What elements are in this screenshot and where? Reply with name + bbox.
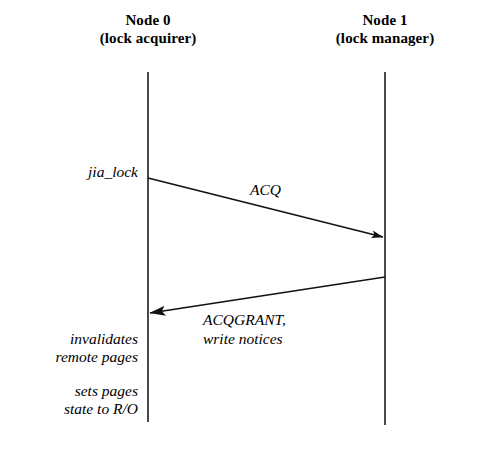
participant-title-node0: Node 0: [125, 12, 170, 28]
annotation-sets-pages-line1: sets pages: [64, 382, 138, 400]
message-label-acqgrant: ACQGRANT, write notices: [203, 310, 286, 349]
message-label-acq-text: ACQ: [250, 181, 281, 198]
message-label-acqgrant-line1: ACQGRANT,: [203, 310, 286, 329]
annotation-invalidates-line2: remote pages: [55, 348, 138, 366]
annotation-invalidates-line1: invalidates: [55, 330, 138, 348]
annotation-jia-lock-text: jia_lock: [88, 163, 138, 180]
annotation-jia-lock: jia_lock: [88, 163, 138, 181]
participant-header-node1: Node 1 (lock manager): [336, 12, 434, 47]
sequence-diagram: Node 0 (lock acquirer) Node 1 (lock mana…: [0, 0, 487, 450]
participant-title-node1: Node 1: [362, 12, 407, 28]
participant-role-node1: (lock manager): [336, 30, 434, 48]
annotation-sets-pages-state: sets pages state to R/O: [64, 382, 138, 419]
message-arrow-acqgrant: [150, 277, 385, 313]
participant-role-node0: (lock acquirer): [100, 30, 197, 48]
annotation-invalidates-remote-pages: invalidates remote pages: [55, 330, 138, 367]
participant-header-node0: Node 0 (lock acquirer): [100, 12, 197, 47]
annotation-sets-pages-line2: state to R/O: [64, 400, 138, 418]
message-label-acq: ACQ: [250, 180, 281, 199]
message-label-acqgrant-line2: write notices: [203, 329, 286, 348]
